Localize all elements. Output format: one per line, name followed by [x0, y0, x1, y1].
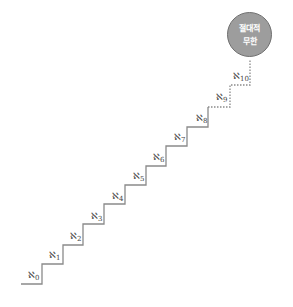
step-label-8: ℵ8 — [196, 114, 207, 125]
node-label-line2: 무한 — [243, 35, 257, 48]
aleph-staircase-diagram: ℵ0 ℵ1 ℵ2 ℵ3 ℵ4 ℵ5 ℵ6 ℵ7 ℵ8 ℵ9 ℵ10 절대적 무한 — [0, 0, 293, 307]
dotted-staircase — [208, 60, 250, 107]
step-label-1: ℵ1 — [49, 251, 60, 262]
absolute-infinity-node: 절대적 무한 — [227, 12, 272, 57]
step-label-3: ℵ3 — [91, 212, 102, 223]
step-label-4: ℵ4 — [112, 192, 123, 203]
node-label-line1: 절대적 — [239, 22, 260, 35]
step-label-0: ℵ0 — [28, 271, 39, 282]
step-label-9: ℵ9 — [216, 93, 227, 104]
step-label-10: ℵ10 — [233, 72, 249, 83]
step-label-6: ℵ6 — [153, 153, 164, 164]
step-label-2: ℵ2 — [70, 232, 81, 243]
step-label-5: ℵ5 — [133, 172, 144, 183]
step-label-7: ℵ7 — [174, 133, 185, 144]
